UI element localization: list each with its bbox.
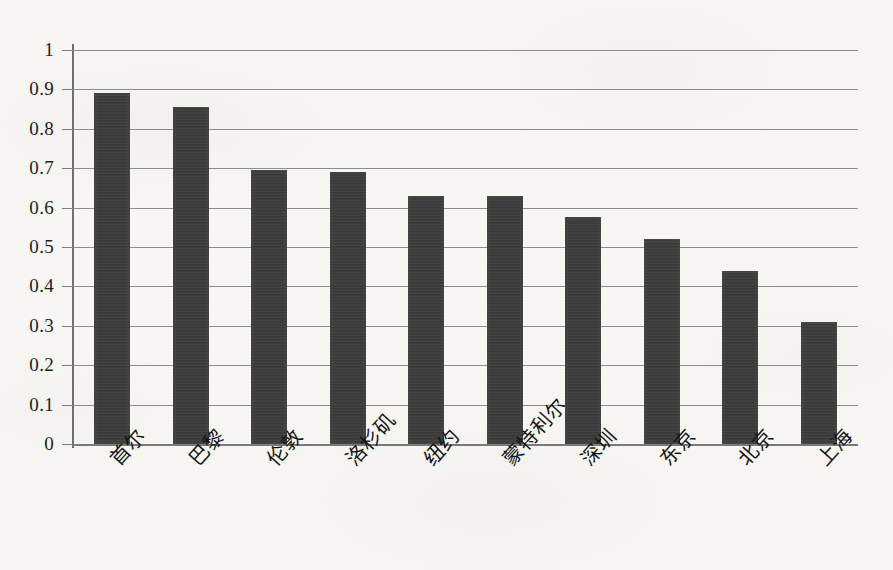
y-tick-mark-0.1 (62, 405, 73, 406)
y-tick-mark-0.6 (62, 208, 73, 209)
y-tick-mark-0.3 (62, 326, 73, 327)
y-tick-label: 0.7 (2, 158, 54, 177)
y-tick-mark-0 (62, 444, 73, 445)
bar (644, 239, 680, 444)
y-tick-label: 0.5 (2, 237, 54, 256)
gridline-0.9 (73, 89, 858, 90)
y-tick-label: 0.6 (2, 198, 54, 217)
y-tick-label: 0.3 (2, 316, 54, 335)
y-tick-label: 0.2 (2, 355, 54, 374)
y-tick-mark-0.7 (62, 168, 73, 169)
bar (251, 170, 287, 444)
y-tick-mark-0.9 (62, 89, 73, 90)
bar (487, 196, 523, 444)
y-tick-mark-0.2 (62, 365, 73, 366)
y-tick-mark-0.8 (62, 129, 73, 130)
y-tick-mark-0.5 (62, 247, 73, 248)
bar (408, 196, 444, 444)
y-tick-mark-1 (62, 50, 73, 51)
plot-area (73, 50, 858, 444)
bar (330, 172, 366, 444)
bar (173, 107, 209, 444)
y-tick-label: 0.8 (2, 119, 54, 138)
y-tick-label: 0.4 (2, 276, 54, 295)
y-tick-label: 0.1 (2, 395, 54, 414)
y-tick-label: 0.9 (2, 79, 54, 98)
gridline-1 (73, 50, 858, 51)
y-tick-mark-0.4 (62, 286, 73, 287)
y-tick-label: 0 (2, 434, 54, 453)
chart-page: 10.90.80.70.60.50.40.30.20.10 首尔巴黎伦敦洛杉矶纽… (0, 0, 893, 570)
bar (94, 93, 130, 444)
y-tick-label: 1 (2, 40, 54, 59)
bar (722, 271, 758, 444)
